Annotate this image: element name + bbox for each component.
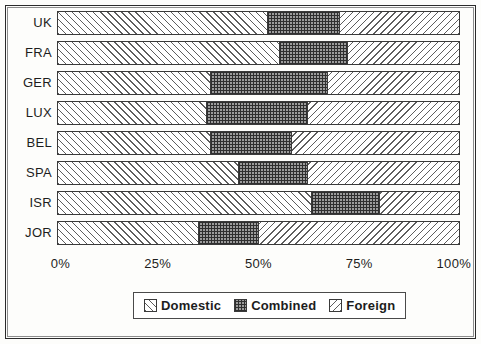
bar-segment-foreign: [339, 12, 459, 34]
bar-segment-domestic: [58, 162, 238, 184]
bar-segment-domestic: [58, 102, 206, 124]
bar-segment-combined: [206, 102, 306, 124]
bar-track: [57, 11, 460, 35]
legend-swatch-domestic-icon: [144, 299, 157, 312]
bar-track: [57, 41, 460, 65]
bar-segment-foreign: [307, 162, 459, 184]
legend-swatch-combined-icon: [234, 299, 247, 312]
bar-row-bel: [57, 131, 460, 155]
bar-row-lux: [57, 101, 460, 125]
legend-item-combined: Combined: [234, 298, 316, 313]
bar-track: [57, 191, 460, 215]
bar-segment-combined: [279, 42, 347, 64]
bar-track: [57, 131, 460, 155]
y-axis-label-fra: FRA: [4, 41, 52, 65]
legend-item-domestic: Domestic: [144, 298, 221, 313]
y-axis-category-labels: UKFRAGERLUXBELSPAISRJOR: [0, 11, 52, 253]
bar-segment-domestic: [58, 192, 311, 214]
x-axis-tick-labels: 0%25%50%75%100%: [57, 256, 460, 276]
bar-segment-foreign: [379, 192, 459, 214]
bar-segment-combined: [198, 222, 258, 244]
bar-segment-foreign: [327, 72, 459, 94]
x-tick-50: 50%: [245, 256, 272, 271]
x-tick-100: 100%: [437, 256, 471, 271]
plot-area: [57, 11, 460, 253]
y-axis-label-ger: GER: [4, 71, 52, 95]
bar-track: [57, 221, 460, 245]
y-axis-label-uk: UK: [4, 11, 52, 35]
y-axis-label-isr: ISR: [4, 191, 52, 215]
x-tick-25: 25%: [144, 256, 171, 271]
bar-segment-domestic: [58, 12, 267, 34]
bar-row-jor: [57, 221, 460, 245]
bar-segment-combined: [210, 132, 290, 154]
chart-legend: DomesticCombinedForeign: [133, 292, 406, 319]
bar-segment-domestic: [58, 132, 210, 154]
bar-segment-foreign: [258, 222, 459, 244]
bar-segment-combined: [210, 72, 326, 94]
y-axis-label-jor: JOR: [4, 221, 52, 245]
y-axis-label-spa: SPA: [4, 161, 52, 185]
bar-segment-domestic: [58, 222, 198, 244]
legend-label: Domestic: [161, 298, 221, 313]
bar-segment-foreign: [347, 42, 459, 64]
bar-segment-domestic: [58, 42, 279, 64]
legend-label: Foreign: [346, 298, 395, 313]
bar-row-uk: [57, 11, 460, 35]
chart-figure: UKFRAGERLUXBELSPAISRJOR 0%25%50%75%100% …: [0, 0, 481, 344]
legend-swatch-foreign-icon: [329, 299, 342, 312]
legend-item-foreign: Foreign: [329, 298, 395, 313]
bar-row-isr: [57, 191, 460, 215]
bar-segment-domestic: [58, 72, 210, 94]
bar-row-spa: [57, 161, 460, 185]
bar-segment-combined: [267, 12, 339, 34]
legend-label: Combined: [251, 298, 316, 313]
bar-segment-foreign: [291, 132, 459, 154]
bar-segment-combined: [238, 162, 306, 184]
bar-track: [57, 71, 460, 95]
y-axis-label-lux: LUX: [4, 101, 52, 125]
y-axis-label-bel: BEL: [4, 131, 52, 155]
bar-row-ger: [57, 71, 460, 95]
bar-track: [57, 161, 460, 185]
bar-track: [57, 101, 460, 125]
x-tick-75: 75%: [346, 256, 373, 271]
bar-segment-combined: [311, 192, 379, 214]
x-tick-0: 0%: [51, 256, 70, 271]
bar-segment-foreign: [307, 102, 459, 124]
bar-row-fra: [57, 41, 460, 65]
